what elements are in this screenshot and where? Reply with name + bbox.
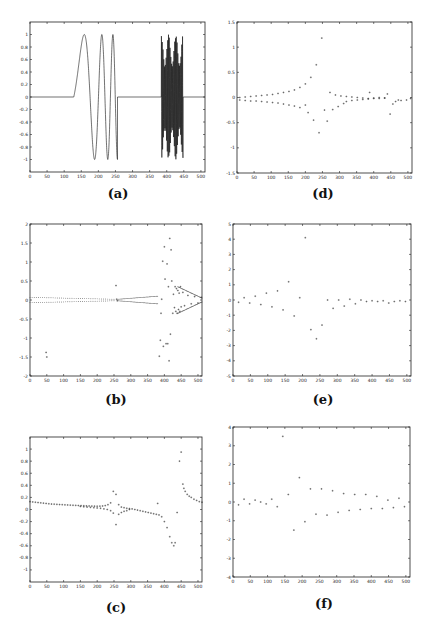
y-tick-label: 4 (228, 237, 231, 242)
x-tick-label: 100 (263, 579, 272, 584)
x-tick-label: 350 (352, 175, 361, 180)
axes-frame (30, 437, 202, 582)
y-tick-label: 1 (25, 447, 28, 452)
x-tick-label: 200 (93, 378, 102, 383)
y-tick-label: -2 (227, 328, 232, 333)
figure: 050100150200250300350400450500-1-0.8-0.6… (0, 0, 437, 629)
y-tick-label: -1 (24, 157, 29, 162)
subplot-d: 050100150200250300350400450500-1.5-1-0.5… (226, 20, 412, 181)
x-tick-label: 450 (384, 579, 393, 584)
y-tick-label: -0.2 (19, 519, 28, 524)
y-tick-label: 1.5 (228, 20, 235, 25)
x-tick-label: 100 (60, 174, 69, 179)
x-tick-label: 400 (367, 579, 376, 584)
x-tick-label: 300 (332, 579, 341, 584)
axes-frame (30, 224, 202, 376)
x-tick-label: 100 (267, 175, 276, 180)
y-tick-label: -0.8 (19, 555, 28, 560)
y-tick-label: -0.2 (19, 107, 28, 112)
y-tick-label: -4 (227, 575, 232, 580)
y-tick-label: -0.5 (19, 317, 28, 322)
x-tick-label: 100 (59, 584, 68, 589)
x-tick-label: 200 (298, 579, 307, 584)
y-tick-label: 2 (228, 267, 231, 272)
y-tick-label: -5 (227, 374, 232, 379)
x-tick-label: 500 (194, 378, 203, 383)
signal-line (30, 35, 205, 160)
x-tick-label: 200 (298, 378, 307, 383)
y-tick-label: 0.5 (228, 70, 235, 75)
x-tick-label: 500 (402, 579, 411, 584)
y-tick-label: -0.8 (19, 145, 28, 150)
x-tick-label: 250 (316, 378, 325, 383)
y-tick-label: 0.4 (21, 483, 28, 488)
x-tick-label: 500 (194, 584, 203, 589)
x-tick-label: 50 (44, 378, 50, 383)
x-tick-label: 400 (160, 584, 169, 589)
axes-frame (237, 22, 412, 173)
x-tick-label: 150 (281, 378, 290, 383)
y-tick-label: 3 (228, 443, 231, 448)
y-tick-label: -1 (24, 567, 29, 572)
x-tick-label: 250 (110, 378, 119, 383)
x-tick-label: 300 (333, 378, 342, 383)
subplot-c: 050100150200250300350400450500-1-0.8-0.6… (19, 437, 203, 589)
y-tick-label: -1 (227, 313, 232, 318)
y-tick-label: 0.8 (21, 45, 28, 50)
y-tick-label: -1 (24, 336, 29, 341)
x-tick-label: 250 (110, 584, 119, 589)
x-tick-label: 250 (111, 174, 120, 179)
caption-f: (f) (304, 596, 344, 611)
y-tick-label: 0.5 (21, 279, 28, 284)
x-tick-label: 500 (403, 378, 412, 383)
y-tick-label: 3 (228, 252, 231, 257)
x-tick-label: 450 (385, 378, 394, 383)
y-tick-label: -2 (227, 537, 232, 542)
axes-frame (233, 224, 411, 376)
subplot-a: 050100150200250300350400450500-1-0.8-0.6… (19, 22, 205, 179)
y-tick-label: 4 (228, 425, 231, 430)
x-tick-label: 0 (29, 378, 32, 383)
y-tick-label: 0.6 (21, 471, 28, 476)
y-tick-label: 0 (228, 500, 231, 505)
x-tick-label: 400 (368, 378, 377, 383)
x-tick-label: 450 (387, 175, 396, 180)
x-tick-label: 500 (197, 174, 206, 179)
y-tick-label: 0 (228, 298, 231, 303)
y-tick-label: -0.6 (19, 543, 28, 548)
x-tick-label: 350 (350, 579, 359, 584)
y-tick-label: -0.4 (19, 120, 28, 125)
y-tick-label: -1.5 (19, 355, 28, 360)
x-tick-label: 300 (335, 175, 344, 180)
x-tick-label: 350 (143, 584, 152, 589)
x-tick-label: 450 (177, 378, 186, 383)
x-tick-label: 50 (251, 175, 257, 180)
x-tick-label: 350 (350, 378, 359, 383)
y-tick-label: 1 (25, 260, 28, 265)
x-tick-label: 300 (128, 174, 137, 179)
y-tick-label: 0 (25, 507, 28, 512)
y-tick-label: 2 (25, 222, 28, 227)
y-tick-label: 0.6 (21, 57, 28, 62)
y-tick-label: 0.2 (21, 82, 28, 87)
caption-b: (b) (96, 392, 136, 407)
y-tick-label: -1.5 (226, 171, 235, 176)
y-tick-label: 0.2 (21, 495, 28, 500)
x-tick-label: 450 (177, 584, 186, 589)
subplot-b: 050100150200250300350400450500-2-1.5-1-0… (19, 222, 202, 384)
x-tick-label: 0 (236, 175, 239, 180)
x-tick-label: 0 (232, 579, 235, 584)
x-tick-label: 50 (44, 174, 50, 179)
axes-frame (233, 427, 410, 577)
y-tick-label: 1 (232, 45, 235, 50)
subplot-f: 050100150200250300350400450500-4-3-2-101… (227, 425, 411, 585)
x-tick-label: 150 (77, 174, 86, 179)
x-tick-label: 200 (301, 175, 310, 180)
x-tick-label: 200 (94, 174, 103, 179)
y-tick-label: 2 (228, 462, 231, 467)
x-tick-label: 50 (248, 378, 254, 383)
y-tick-label: -2 (24, 374, 29, 379)
y-tick-label: 0 (25, 95, 28, 100)
x-tick-label: 50 (247, 579, 253, 584)
y-tick-label: -3 (227, 556, 232, 561)
